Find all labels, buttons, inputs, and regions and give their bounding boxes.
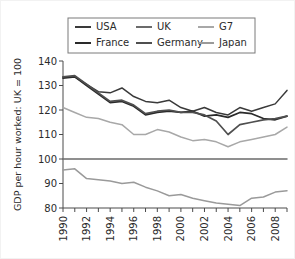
y-axis-title: GDP per hour worked: UK = 100 [12, 58, 23, 211]
y-tick-label: 100 [38, 154, 57, 165]
y-tick-label: 80 [44, 203, 57, 214]
x-tick-label: 1996 [128, 216, 139, 241]
x-tick-label: 1992 [81, 216, 92, 241]
series-line-japan [63, 169, 287, 206]
series-line-usa [63, 77, 287, 115]
y-tick-label: 120 [38, 105, 57, 116]
x-tick-label: 2000 [175, 216, 186, 241]
series-line-france [63, 77, 287, 120]
x-tick-label: 2004 [223, 216, 234, 241]
series-line-g7 [63, 108, 287, 147]
legend-label-france: France [96, 37, 129, 48]
y-tick-label: 130 [38, 80, 57, 91]
y-tick-label: 140 [38, 56, 57, 67]
x-tick-label: 1990 [58, 216, 69, 241]
legend-label-usa: USA [96, 21, 117, 32]
legend-label-uk: UK [157, 21, 171, 32]
chart-container: 8090100110120130140199019921994199619982… [0, 0, 295, 259]
y-tick-label: 90 [44, 178, 57, 189]
legend-label-g7: G7 [219, 21, 233, 32]
legend-label-germany: Germany [157, 37, 203, 48]
legend-label-japan: Japan [218, 37, 247, 48]
x-tick-label: 2008 [270, 216, 281, 241]
x-tick-label: 2002 [199, 216, 210, 241]
series-line-germany [63, 76, 287, 135]
x-tick-label: 1994 [105, 216, 116, 241]
line-chart: 8090100110120130140199019921994199619982… [1, 1, 295, 259]
x-tick-label: 2006 [246, 216, 257, 241]
x-tick-label: 1998 [152, 216, 163, 241]
y-tick-label: 110 [38, 129, 57, 140]
